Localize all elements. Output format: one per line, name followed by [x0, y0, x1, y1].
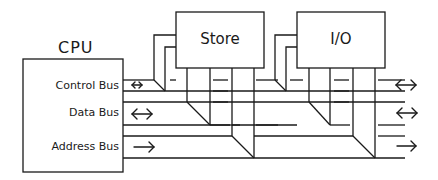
cpu-label: CPU [58, 38, 94, 57]
io-label: I/O [297, 30, 385, 48]
control-bus-label: Control Bus [55, 79, 119, 92]
right-address-arrow-icon [397, 141, 416, 151]
address-bus-arrow-icon [134, 142, 154, 152]
data-bus-arrow-icon [132, 109, 152, 119]
store-label: Store [176, 30, 264, 48]
right-data-arrow-icon [397, 108, 417, 118]
address-bus-label: Address Bus [51, 140, 119, 153]
right-control-arrow-icon [396, 80, 416, 90]
cpu-bus-labels: Control Bus Data Bus Address Bus [23, 59, 119, 172]
control-bus-arrow-icon [132, 82, 142, 88]
data-bus-label: Data Bus [69, 106, 119, 119]
